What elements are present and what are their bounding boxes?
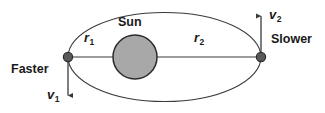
r1-label: r1 [84, 31, 94, 44]
right-vertex-dot [256, 52, 265, 61]
sun-circle [113, 35, 157, 79]
v1-label: v1 [47, 88, 59, 101]
v1-symbol: v [47, 87, 54, 102]
v2-label: v2 [269, 8, 281, 21]
sun-label: Sun [118, 16, 142, 29]
r2-label: r2 [194, 31, 204, 44]
r1-subscript: 1 [90, 37, 95, 47]
slower-label: Slower [271, 33, 312, 46]
r2-symbol: r [194, 30, 199, 45]
faster-label: Faster [11, 63, 49, 76]
v2-symbol: v [269, 7, 276, 22]
v2-subscript: 2 [277, 14, 282, 24]
v1-subscript: 1 [55, 94, 60, 104]
r1-symbol: r [84, 30, 89, 45]
r2-subscript: 2 [200, 37, 205, 47]
left-vertex-dot [63, 52, 72, 61]
orbit-diagram: Sun Faster Slower r1 r2 v1 v2 [0, 0, 325, 113]
